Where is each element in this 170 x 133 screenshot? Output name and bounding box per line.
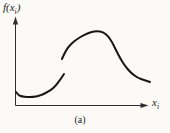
y-axis-label-close: ) (17, 1, 21, 13)
figure-caption: (a) (68, 114, 92, 125)
x-axis-arrowhead (141, 103, 149, 108)
figure-discontinuous-function: f(xi) xi (a) (0, 0, 170, 133)
y-axis-arrowhead (13, 17, 18, 25)
curve-segment-1 (16, 74, 64, 97)
x-axis-label-subscript: i (157, 102, 159, 111)
y-axis-label-base: f(x (3, 1, 15, 13)
x-axis-label: xi (152, 96, 159, 109)
y-axis-label: f(xi) (3, 1, 20, 14)
curve-segment-2 (62, 31, 150, 82)
